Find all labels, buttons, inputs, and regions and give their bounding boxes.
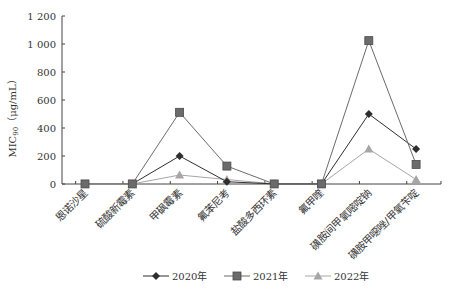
data-point-triangle xyxy=(175,171,184,179)
category-labels: 恩诺沙星硫酸新霉素甲砜霉素氟苯尼考盐酸多西环素氟甲喹磺胺间甲氧嘧啶钠磺胺甲噁唑/… xyxy=(53,186,422,261)
legend: 2020年2021年2022年 xyxy=(143,270,369,282)
legend-label: 2021年 xyxy=(253,270,288,282)
category-label: 氟苯尼考 xyxy=(195,187,232,224)
y-tick-label: 1 200 xyxy=(27,11,56,22)
data-point-triangle xyxy=(412,175,421,183)
category-label: 氟甲喹 xyxy=(296,186,326,216)
y-axis-title: MIC90（μg/mL） xyxy=(7,74,20,157)
series-lines xyxy=(85,41,416,184)
series-markers xyxy=(81,37,421,188)
category-label: 盐酸多西环素 xyxy=(228,187,279,238)
y-tick-label: 600 xyxy=(37,95,56,106)
line-chart: 02004006008001 0001 200 恩诺沙星硫酸新霉素甲砜霉素氟苯尼… xyxy=(0,0,455,295)
y-axis: 02004006008001 0001 200 xyxy=(27,11,65,190)
y-tick-label: 0 xyxy=(50,179,56,190)
y-axis-label: MIC90（μg/mL） xyxy=(7,74,20,157)
legend-item: 2021年 xyxy=(224,270,288,282)
y-tick-label: 400 xyxy=(37,123,56,134)
legend-item: 2020年 xyxy=(143,270,207,282)
data-point-diamond xyxy=(412,145,420,153)
data-point-square xyxy=(318,180,326,188)
data-point-square xyxy=(270,180,278,188)
data-point-square xyxy=(128,180,136,188)
series-line-2021年 xyxy=(85,41,416,184)
series-line-2022年 xyxy=(132,149,416,184)
data-point-square xyxy=(81,180,89,188)
legend-marker-square xyxy=(233,272,241,280)
y-tick-label: 200 xyxy=(37,151,56,162)
data-point-diamond xyxy=(365,110,373,118)
data-point-diamond xyxy=(176,152,184,160)
legend-marker-diamond xyxy=(152,272,160,280)
category-label: 甲砜霉素 xyxy=(147,187,184,224)
data-point-square xyxy=(176,108,184,116)
data-point-square xyxy=(223,162,231,170)
legend-label: 2022年 xyxy=(334,270,369,282)
category-label: 硫酸新霉素 xyxy=(93,187,137,231)
y-tick-label: 1 000 xyxy=(27,39,56,50)
data-point-square xyxy=(365,37,373,45)
legend-label: 2020年 xyxy=(172,270,207,282)
y-tick-label: 800 xyxy=(37,67,56,78)
data-point-triangle xyxy=(364,145,373,153)
category-label: 恩诺沙星 xyxy=(53,187,90,224)
legend-item: 2022年 xyxy=(305,270,369,282)
series-line-2020年 xyxy=(132,114,416,184)
data-point-square xyxy=(412,160,420,168)
